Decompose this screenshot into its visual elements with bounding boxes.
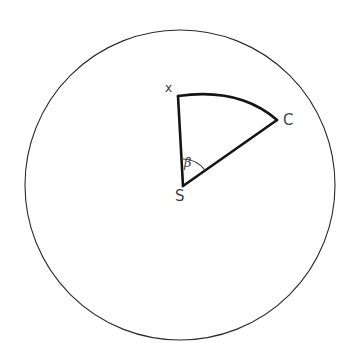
vertex-label-c: C (283, 113, 293, 128)
sector-arc-xc (178, 94, 277, 120)
angle-label-beta: β (184, 156, 192, 169)
vertex-label-s: S (175, 189, 185, 204)
outer-circle (25, 30, 335, 340)
vertex-label-x: x (165, 82, 172, 94)
geometry-figure: x C S β (0, 0, 354, 358)
radius-line-sc (183, 120, 277, 186)
figure-canvas (0, 0, 354, 358)
radius-line-sx (178, 96, 183, 186)
